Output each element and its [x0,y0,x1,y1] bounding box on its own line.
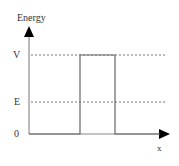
x-axis-arrow-icon [159,129,170,139]
y-axis-arrow-icon [24,26,34,37]
level-label-zero: 0 [14,129,19,139]
level-label-e: E [14,97,20,107]
potential-barrier-diagram [0,0,179,166]
y-axis-label: Energy [17,13,46,23]
x-axis-label: x [157,143,162,153]
level-label-v: V [13,50,20,60]
potential-barrier [29,55,160,134]
